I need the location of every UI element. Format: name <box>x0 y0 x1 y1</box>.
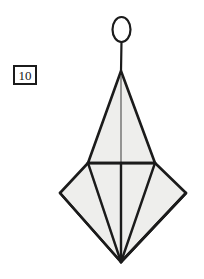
figure-drawing-canvas <box>0 0 204 279</box>
neck-stem <box>121 41 122 71</box>
figure-index-label-text: 10 <box>19 69 32 82</box>
figure-index-label: 10 <box>13 65 37 85</box>
head-ellipse <box>113 17 131 42</box>
